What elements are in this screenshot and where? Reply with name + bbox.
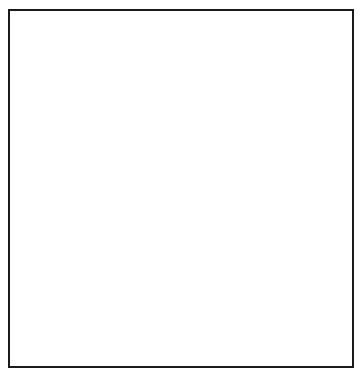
diagram-frame	[8, 9, 354, 368]
